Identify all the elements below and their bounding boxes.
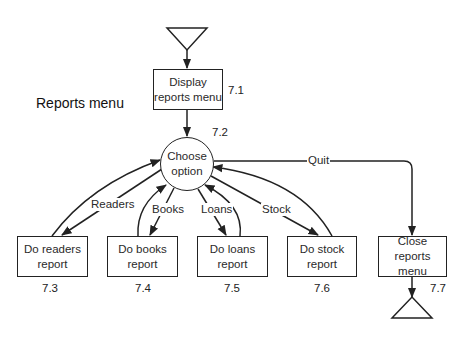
process-label-line1: Do loans xyxy=(210,243,255,255)
flow-label-stock: Stock xyxy=(261,203,292,216)
entry-triangle-icon xyxy=(167,28,207,50)
process-label-line2: report xyxy=(307,258,337,270)
process-display-reports-menu: Displayreports menu xyxy=(153,69,223,110)
process-label-line1: Choose xyxy=(167,150,207,162)
exit-triangle-icon xyxy=(392,297,432,318)
process-label-line2: report xyxy=(37,258,67,270)
process-label-line1: Close xyxy=(398,235,427,247)
process-number: 7.4 xyxy=(135,282,151,294)
process-number: 7.5 xyxy=(224,282,240,294)
flow-label-loans: Loans xyxy=(200,203,233,216)
process-label-line2: report xyxy=(127,258,157,270)
process-number: 7.6 xyxy=(314,282,330,294)
process-number: 7.7 xyxy=(430,282,446,294)
process-number: 7.2 xyxy=(212,126,228,138)
process-do-readers-report: Do readersreport xyxy=(17,236,88,277)
process-label-line1: Display xyxy=(169,76,207,88)
process-close-reports-menu: Closereports menu xyxy=(378,236,447,277)
process-do-loans-report: Do loansreport xyxy=(197,236,268,277)
flow-label-books: Books xyxy=(151,203,185,216)
process-do-books-report: Do booksreport xyxy=(107,236,178,277)
diagram-title: Reports menu xyxy=(36,95,124,111)
process-label-line1: Do books xyxy=(118,243,167,255)
process-label-line2: option xyxy=(171,165,202,177)
process-do-stock-report: Do stockreport xyxy=(287,236,357,277)
process-label-line1: Do readers xyxy=(24,243,81,255)
flow-label-readers: Readers xyxy=(90,198,135,211)
process-label-line2: reports menu xyxy=(154,91,222,103)
process-choose-option: Chooseoption xyxy=(160,137,214,191)
process-number: 7.3 xyxy=(42,282,58,294)
process-label-line2: reports menu xyxy=(395,250,431,277)
process-label-line1: Do stock xyxy=(300,243,345,255)
flow-label-quit: Quit xyxy=(307,154,330,167)
process-label-line2: report xyxy=(217,258,247,270)
process-number: 7.1 xyxy=(228,84,244,96)
